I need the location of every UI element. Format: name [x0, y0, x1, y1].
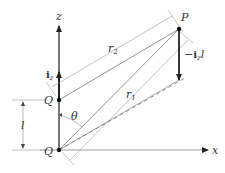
- z-axis-label: z: [55, 10, 62, 23]
- dipole-diagram: z x P Q Q l θ iz −izl r2 r1: [0, 0, 225, 173]
- length-dim-arrow-top: [21, 101, 25, 106]
- point-q-upper: [57, 98, 61, 102]
- point-p-label: P: [180, 11, 189, 24]
- r-dim-ext-bottom: [62, 152, 74, 165]
- point-q-origin: [57, 148, 61, 152]
- length-label: l: [21, 119, 25, 132]
- theta-label: θ: [71, 110, 78, 123]
- point-q-origin-label: Q: [44, 145, 53, 158]
- unit-vector-label: iz: [46, 69, 54, 82]
- x-axis-label: x: [212, 144, 219, 157]
- length-dim-arrow-bottom: [21, 144, 25, 149]
- r2-label: r2: [108, 42, 118, 56]
- negative-moment-label: −izl: [184, 48, 205, 62]
- point-q-upper-label: Q: [44, 94, 53, 107]
- point-p: [177, 27, 181, 31]
- r1-label: r1: [126, 88, 136, 102]
